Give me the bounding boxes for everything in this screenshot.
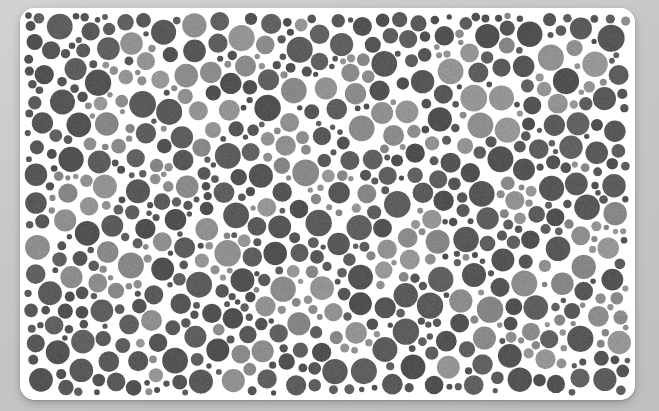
scene-root: Ishihara-style color vision test plate r… [0, 0, 659, 411]
ishihara-dot-plate [20, 8, 635, 400]
plate-alt-text: Ishihara-style color vision test plate r… [0, 16, 1, 17]
plate-card [20, 8, 635, 400]
